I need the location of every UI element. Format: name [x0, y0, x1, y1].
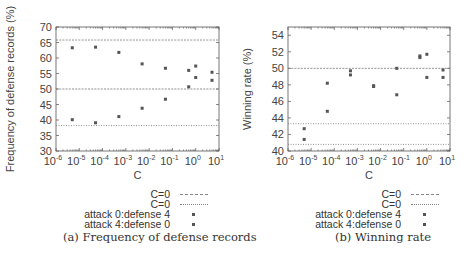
- caption-frequency: (a) Frequency of defense records: [63, 230, 257, 244]
- data-point: [94, 46, 97, 49]
- data-point: [194, 65, 197, 68]
- x-tick-label: 10-5: [299, 154, 318, 167]
- y-tick-label: 70: [40, 21, 52, 33]
- dashed-line-swatch-icon: [180, 194, 208, 195]
- data-point: [425, 76, 428, 79]
- data-point: [372, 85, 375, 88]
- y-tick-label: 46: [272, 95, 284, 107]
- data-point: [210, 71, 213, 74]
- x-tick-label: 10-1: [391, 154, 410, 167]
- chart-panel-winning-rate: 404244464850525410-610-510-410-310-210-1…: [235, 0, 469, 266]
- y-tick-label: 65: [40, 37, 52, 49]
- legend-winning-rate: C=0 C=0 attack 0:defense 4 attack 4:defe…: [235, 189, 469, 234]
- data-point: [349, 73, 352, 76]
- dashed-line-swatch-icon: [411, 194, 439, 195]
- data-point: [187, 69, 190, 72]
- x-tick-label: 101: [439, 154, 455, 167]
- x-tick-label: 10-3: [345, 154, 364, 167]
- x-tick-label: 10-2: [137, 154, 156, 167]
- data-point: [326, 110, 329, 113]
- y-tick-label: 52: [272, 46, 284, 58]
- x-tick-label: 10-6: [276, 154, 295, 167]
- data-point: [117, 51, 120, 54]
- y-axis-label: Frequency of defense records (%): [4, 6, 16, 172]
- data-point: [164, 67, 167, 70]
- data-point: [117, 115, 120, 118]
- data-point: [94, 121, 97, 124]
- x-tick-label: 10-4: [322, 154, 341, 167]
- data-point: [395, 67, 398, 70]
- data-point: [187, 85, 190, 88]
- data-point: [303, 127, 306, 130]
- x-axis-label: C: [365, 169, 373, 181]
- dotted-line-swatch-icon: [411, 204, 439, 205]
- data-point: [442, 68, 445, 71]
- x-tick-label: 101: [208, 154, 224, 167]
- legend-label: attack 4:defense 0: [315, 219, 401, 229]
- dotted-line-swatch-icon: [180, 204, 208, 205]
- marker-swatch-icon: [423, 223, 426, 226]
- data-point: [303, 138, 306, 141]
- data-point: [71, 118, 74, 121]
- x-tick-label: 10-4: [90, 154, 109, 167]
- x-tick-label: 10-1: [160, 154, 179, 167]
- data-point: [418, 56, 421, 59]
- y-tick-label: 42: [272, 128, 284, 140]
- x-tick-label: 100: [416, 154, 432, 167]
- y-tick-label: 54: [272, 29, 284, 41]
- caption-winning-rate: (b) Winning rate: [335, 230, 431, 244]
- x-tick-label: 10-6: [44, 154, 63, 167]
- data-point: [442, 76, 445, 79]
- data-point: [141, 107, 144, 110]
- x-axis-label: C: [134, 169, 142, 181]
- data-point: [141, 62, 144, 65]
- plot-frame: [288, 27, 450, 151]
- x-tick-label: 100: [185, 154, 201, 167]
- data-point: [326, 82, 329, 85]
- y-tick-label: 45: [40, 99, 52, 111]
- data-point: [194, 76, 197, 79]
- legend-label: attack 4:defense 0: [84, 219, 170, 229]
- y-tick-label: 60: [40, 52, 52, 64]
- y-axis-label: Winning rate (%): [241, 48, 253, 130]
- marker-swatch-icon: [192, 223, 195, 226]
- data-point: [71, 46, 74, 49]
- x-tick-label: 10-2: [368, 154, 387, 167]
- y-tick-label: 50: [272, 62, 284, 74]
- data-point: [395, 93, 398, 96]
- x-tick-label: 10-5: [67, 154, 86, 167]
- marker-swatch-icon: [423, 213, 426, 216]
- y-tick-label: 50: [40, 83, 52, 95]
- y-tick-label: 40: [40, 114, 52, 126]
- y-tick-label: 35: [40, 130, 52, 142]
- data-point: [349, 69, 352, 72]
- data-point: [164, 98, 167, 101]
- data-point: [425, 53, 428, 56]
- y-tick-label: 48: [272, 79, 284, 91]
- data-point: [210, 79, 213, 82]
- legend-frequency: C=0 C=0 attack 0:defense 4 attack 4:defe…: [0, 189, 234, 234]
- x-tick-label: 10-3: [114, 154, 133, 167]
- y-tick-label: 44: [272, 112, 284, 124]
- chart-panel-frequency: 30354045505560657010-610-510-410-310-210…: [0, 0, 234, 266]
- y-tick-label: 55: [40, 68, 52, 80]
- marker-swatch-icon: [192, 213, 195, 216]
